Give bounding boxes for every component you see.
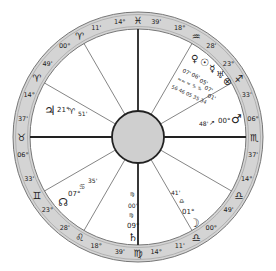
cusp-degree-c6: 23° (42, 206, 54, 214)
cusp-degree-c2r: 14° (241, 175, 253, 183)
cusp-minute-c3r: 11' (175, 242, 185, 250)
cusp-sign-icon-c3r: ♎ (192, 232, 201, 243)
jupiter-sign-icon: ♈ (68, 107, 75, 116)
saturn-glyph-icon: ♄ (128, 231, 138, 244)
center-hub (112, 111, 164, 163)
moon-minute: 41' (171, 189, 181, 196)
cusp-minute-ic: 39' (115, 248, 125, 256)
north-node-degree: 07° (68, 190, 80, 198)
mars-glyph-icon: ♂ (231, 112, 242, 126)
mercury-glyph-icon: ☿ (209, 63, 215, 74)
cusp-degree-asc: 06° (17, 151, 29, 159)
moon-degree: 01° (182, 208, 194, 216)
cusp-degree-mc: 14° (114, 18, 126, 26)
cusp-degree-c3r: 00° (206, 224, 218, 232)
north-node-glyph-icon: ☊ (58, 196, 68, 209)
cusp-sign-icon-ic: ♍ (134, 248, 143, 259)
cusp-sign-icon-c8: ♈ (33, 73, 42, 84)
cusp-minute-asc: 37' (18, 115, 28, 123)
cusp-minute-c8: 49' (42, 60, 52, 68)
cusp-sign-icon-mc: ♓ (134, 15, 143, 26)
cusp-sign-icon-c6: ♊ (33, 190, 42, 201)
saturn-minute: 00' (128, 202, 138, 209)
cusp-sign-icon-c9: ♈ (75, 31, 84, 42)
cusp-minute-c12: 33' (242, 91, 252, 99)
cusp-minute-mc: 39' (151, 18, 161, 26)
saturn-sign-top-icon: ♍ (130, 191, 135, 197)
cusp-degree-c5: 18° (90, 242, 102, 250)
mars-minute: 48' (199, 120, 209, 127)
cusp-minute-c11: 28' (206, 42, 216, 50)
cusp-sign-icon-c2r: ♎ (234, 190, 243, 201)
sun-glyph-icon: ☉ (200, 57, 209, 68)
cusp-sign-icon-c11: ♒ (192, 31, 201, 42)
cusp-minute-c5: 28' (60, 224, 70, 232)
jupiter-glyph-icon: ♃ (44, 103, 56, 118)
jupiter-minute: 51' (78, 110, 88, 117)
cusp-sign-icon-dsc: ♏ (250, 132, 259, 143)
cusp-sign-icon-c5: ♌ (75, 232, 84, 243)
moon-sign-icon: ♎ (179, 197, 184, 204)
mars-degree: 00° (218, 117, 230, 125)
saturn-sign-icon: ♍ (129, 212, 134, 218)
cusp-degree-c12: 23° (223, 60, 235, 68)
venus-glyph-icon: ♀ (191, 53, 198, 64)
center-hub-circle (112, 111, 164, 163)
part-of-fortune-glyph-icon: ⊗ (223, 76, 231, 87)
cusp-degree-dsc: 06° (247, 115, 259, 123)
cusp-sign-icon-asc: ♉ (17, 132, 26, 143)
cusp-minute-c6: 33' (24, 175, 34, 183)
cusp-degree-c9: 00° (59, 42, 71, 50)
saturn-degree: 09° (127, 222, 139, 230)
cusp-sign-icon-c12: ♐ (234, 73, 243, 84)
cusp-minute-c2r: 49' (224, 206, 234, 214)
cusp-degree-c8: 14° (23, 91, 35, 99)
cusp-minute-dsc: 37' (248, 151, 258, 159)
moon-glyph-icon: ☽ (189, 216, 200, 230)
north-node-sign-icon: ♋ (79, 183, 85, 191)
natal-chart-wheel: 14°♓39'18°♒28'23°♐33'06°♏37'14°♎49'00°♎1… (0, 0, 276, 271)
north-node-minute: 35' (88, 177, 98, 184)
cusp-degree-c11: 18° (174, 24, 186, 32)
cusp-minute-c9: 11' (91, 24, 101, 32)
cusp-degree-ic: 14° (150, 248, 162, 256)
mars-sign-icon: ↗ (209, 119, 215, 127)
